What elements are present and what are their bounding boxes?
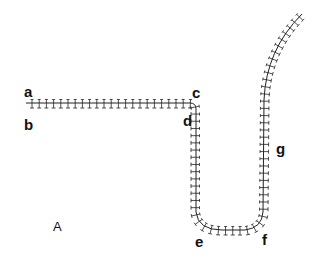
subunit-tick	[260, 200, 269, 204]
subunit-tick	[191, 112, 200, 116]
subunit-tick	[116, 100, 120, 109]
subunit-tick	[191, 206, 200, 210]
subunit-tick	[224, 227, 228, 236]
label-e: e	[195, 234, 203, 249]
subunit-tick	[191, 155, 200, 159]
subunit-tick	[296, 13, 305, 21]
subunit-tick	[245, 226, 250, 235]
subunit-tick	[44, 100, 48, 109]
subunit-tick	[260, 157, 269, 161]
label-f: f	[262, 232, 267, 247]
subunit-tick	[191, 177, 200, 181]
subunit-tick	[80, 100, 84, 109]
subunit-tick	[260, 121, 269, 125]
subunit-ticks	[30, 13, 304, 235]
subunit-tick	[37, 100, 41, 109]
label-b: b	[24, 117, 33, 132]
subunit-tick	[160, 100, 164, 109]
subunit-tick	[145, 100, 149, 109]
subunit-tick	[30, 100, 34, 109]
panel-label: A	[53, 220, 62, 233]
subunit-tick	[88, 100, 92, 109]
subunit-tick	[261, 92, 270, 96]
subunit-tick	[191, 134, 200, 138]
subunit-tick	[260, 142, 269, 146]
subunit-tick	[167, 100, 171, 109]
subunit-tick	[260, 171, 269, 175]
subunit-tick	[191, 170, 200, 174]
subunit-tick	[109, 100, 113, 109]
subunit-tick	[124, 100, 128, 109]
subunit-tick	[231, 227, 235, 236]
subunit-tick	[260, 114, 269, 118]
subunit-tick	[216, 226, 220, 235]
subunit-tick	[261, 85, 270, 90]
subunit-tick	[260, 164, 269, 168]
subunit-tick	[191, 141, 200, 145]
subunit-tick	[260, 106, 269, 110]
subunit-tick	[260, 128, 269, 132]
subunit-tick	[174, 100, 178, 109]
label-a: a	[24, 84, 32, 99]
subunit-tick	[95, 100, 99, 109]
subunit-tick	[66, 100, 70, 109]
subunit-tick	[260, 178, 269, 182]
subunit-tick	[191, 162, 200, 166]
subunit-tick	[52, 100, 56, 109]
subunit-tick	[191, 184, 200, 188]
subunit-tick	[59, 100, 63, 109]
subunit-tick	[191, 198, 200, 202]
subunit-tick	[138, 100, 142, 109]
subunit-tick	[191, 191, 200, 195]
label-d: d	[183, 113, 192, 128]
subunit-tick	[260, 207, 269, 211]
subunit-tick	[102, 100, 106, 109]
subunit-tick	[191, 148, 200, 152]
chain-diagram	[0, 0, 326, 262]
subunit-tick	[238, 227, 242, 236]
subunit-tick	[73, 100, 77, 109]
subunit-tick	[191, 126, 200, 130]
label-c: c	[192, 85, 200, 100]
subunit-tick	[260, 186, 269, 190]
subunit-tick	[260, 150, 269, 154]
subunit-tick	[260, 193, 269, 197]
label-g: g	[276, 141, 285, 156]
subunit-tick	[191, 119, 200, 123]
subunit-tick	[260, 135, 269, 139]
subunit-tick	[152, 100, 156, 109]
subunit-tick	[260, 99, 269, 103]
subunit-tick	[131, 100, 135, 109]
subunit-tick	[181, 100, 185, 109]
